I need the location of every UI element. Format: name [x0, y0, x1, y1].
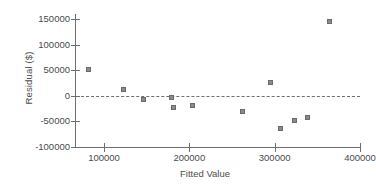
data-point [86, 67, 91, 72]
x-axis-tick-mark [360, 143, 361, 152]
y-axis-tick-mark [71, 45, 80, 46]
x-axis-tick-label: 200000 [173, 152, 205, 163]
data-point [240, 109, 245, 114]
y-axis-tick-label: 150000 [18, 14, 70, 24]
data-point [190, 103, 195, 108]
y-axis-tick-label: 50000 [18, 65, 70, 75]
data-point [268, 80, 273, 85]
y-axis-tick-label: 0 [18, 91, 70, 101]
x-axis-tick-label: 300000 [259, 152, 291, 163]
data-point [141, 97, 146, 102]
x-axis-tick-mark [189, 143, 190, 152]
data-point [305, 115, 310, 120]
x-axis-tick-mark [275, 143, 276, 152]
y-axis-tick-mark [71, 147, 80, 148]
data-point [292, 118, 297, 123]
plot-area [75, 14, 360, 148]
x-axis-tick-mark [104, 143, 105, 152]
y-axis-tick-mark [71, 70, 80, 71]
y-axis-tick-label: 100000 [18, 40, 70, 50]
data-point [171, 105, 176, 110]
x-axis-title: Fitted Value [75, 168, 335, 179]
y-axis-tick-label: -100000 [18, 142, 70, 152]
y-axis-tick-mark [71, 19, 80, 20]
zero-reference-line [76, 96, 360, 97]
y-axis-tick-mark [71, 96, 80, 97]
y-axis-tick-mark [71, 121, 80, 122]
data-point [327, 19, 332, 24]
x-axis-tick-label-group: 100000200000300000400000 [75, 152, 365, 164]
data-point [278, 126, 283, 131]
x-axis-tick-label: 400000 [344, 152, 376, 163]
x-axis-tick-label: 100000 [88, 152, 120, 163]
y-axis-tick-label: -50000 [18, 116, 70, 126]
y-axis-line [75, 14, 76, 148]
data-point [121, 87, 126, 92]
y-axis-tick-label-group: -100000-50000050000100000150000 [15, 0, 70, 188]
data-point [169, 95, 174, 100]
x-axis-line [75, 147, 360, 148]
